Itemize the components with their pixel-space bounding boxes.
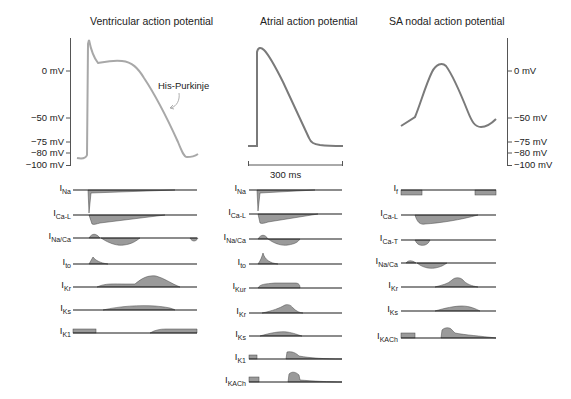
atrial-current-label: IKr	[236, 305, 246, 318]
sa-ytick-3: −80 mV	[514, 147, 547, 158]
ventricular-currents	[73, 190, 198, 333]
figure-canvas	[0, 0, 571, 399]
time-scale-label: 300 ms	[270, 169, 301, 180]
ventricular-ap-trace	[77, 40, 198, 158]
ventricular-ytick-3: −80 mV	[31, 147, 64, 158]
ventricular-ytick-4: −100 mV	[26, 159, 64, 170]
ventricular-current-label: IK1	[60, 325, 71, 338]
atrial-current-label: IKACh	[225, 374, 246, 387]
ventricular-current-label: IKs	[60, 302, 71, 315]
sa-ytick-2: −75 mV	[514, 136, 547, 147]
atrial-current-label: IKur	[232, 280, 246, 293]
sa-current-label: IKs	[387, 303, 398, 316]
atrial-current-label: IK1	[235, 351, 246, 364]
sa-current-label: If	[393, 182, 398, 195]
ventricular-current-label: INa/Ca	[49, 230, 71, 243]
sa-ytick-4: −100 mV	[514, 159, 552, 170]
ventricular-ytick-1: −50 mV	[31, 112, 64, 123]
ventricular-current-label: ICa-L	[53, 207, 71, 220]
sa-current-label: IKACh	[377, 330, 398, 343]
sa-current-label: INa/Ca	[376, 255, 398, 268]
sa-nodal-title: SA nodal action potential	[389, 15, 505, 27]
ventricular-y-axis	[66, 38, 71, 166]
ventricular-current-label: INa	[59, 182, 71, 195]
ventricular-title: Ventricular action potential	[90, 15, 213, 27]
his-purkinje-label: His-Purkinje	[158, 80, 209, 91]
atrial-currents	[249, 190, 342, 382]
atrial-current-label: INa/Ca	[224, 231, 246, 244]
atrial-current-label: IKs	[235, 328, 246, 341]
ventricular-ytick-2: −75 mV	[31, 136, 64, 147]
ventricular-current-label: IKr	[61, 279, 71, 292]
sa-nodal-ap-trace	[401, 64, 496, 127]
ventricular-current-label: Ito	[63, 256, 71, 269]
ventricular-ytick-0: 0 mV	[42, 65, 64, 76]
sa-nodal-baselines	[401, 190, 496, 338]
atrial-ap-trace	[248, 48, 343, 146]
sa-ytick-0: 0 mV	[514, 65, 536, 76]
sa-ytick-1: −50 mV	[514, 112, 547, 123]
sa-current-label: IKr	[388, 279, 398, 292]
atrial-current-label: Ito	[238, 256, 246, 269]
sa-current-label: ICa-T	[380, 232, 398, 245]
sa-nodal-currents	[401, 190, 496, 338]
sa-current-label: ICa-L	[380, 207, 398, 220]
atrial-current-label: ICa-L	[228, 206, 246, 219]
atrial-title: Atrial action potential	[260, 15, 357, 27]
sa-y-axis	[508, 38, 513, 166]
atrial-current-label: INa	[234, 182, 246, 195]
time-scale-bar	[249, 161, 344, 166]
